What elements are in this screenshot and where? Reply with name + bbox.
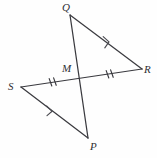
vertex-label-P: P [90,141,97,152]
geometry-figure: Q R S P M [0,0,157,158]
vertex-label-S: S [8,81,14,92]
vertex-label-M: M [62,63,71,74]
segments-group [21,15,142,138]
vertex-label-Q: Q [62,2,70,13]
segment-QR [70,15,142,69]
figure-canvas [0,0,157,158]
segment-SP [21,87,88,138]
segment-SR [21,69,142,87]
segment-QP [70,15,88,138]
vertex-label-R: R [144,64,151,75]
chevron-SP [47,106,53,116]
parallel-marks-group [47,37,109,116]
